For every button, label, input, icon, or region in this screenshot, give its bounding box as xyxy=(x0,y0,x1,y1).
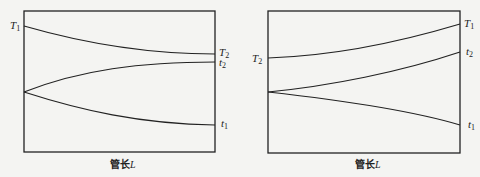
diagram-right: T2 T1 t2 t1 管长L xyxy=(252,11,475,170)
label-t1-left: t1 xyxy=(221,117,228,131)
xlabel-right: 管长L xyxy=(355,158,381,170)
xlabel-left: 管长L xyxy=(110,158,136,170)
label-T2-right: T2 xyxy=(252,52,262,66)
label-t1-right: t1 xyxy=(468,118,475,132)
curve-t2-left xyxy=(24,62,215,92)
diagram-left: T1 T2 t2 t1 管长L xyxy=(10,11,229,170)
label-t2-right: t2 xyxy=(466,45,473,59)
curve-t2-right xyxy=(268,52,460,92)
curve-T2-T1-right xyxy=(268,24,460,58)
curve-t1-right xyxy=(268,92,460,125)
label-T1-right: T1 xyxy=(464,17,474,31)
label-T1-left: T1 xyxy=(10,19,20,33)
curve-T1-T2-left xyxy=(24,26,215,54)
curve-t1-left xyxy=(24,92,215,125)
diagram-canvas: T1 T2 t2 t1 管长L T2 T1 t2 t1 管长L xyxy=(0,0,480,177)
